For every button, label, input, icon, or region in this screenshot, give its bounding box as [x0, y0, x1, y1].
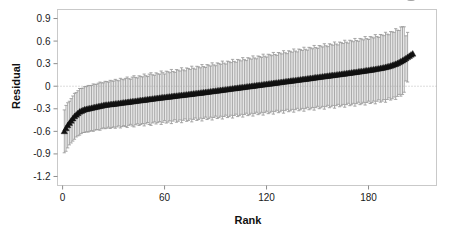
data-markers	[61, 51, 416, 134]
x-tick-label: 120	[258, 192, 275, 203]
plot-frame	[58, 10, 437, 186]
x-axis-label: Rank	[198, 214, 298, 226]
y-tick-label: -0.6	[33, 126, 51, 137]
residual-vs-rank-plot: 0.90.60.30-0.3-0.6-0.9-1.2060120180	[0, 0, 455, 234]
x-tick-label: 0	[60, 192, 66, 203]
y-tick-label: 0.9	[37, 13, 51, 24]
y-tick-label: -0.9	[33, 148, 51, 159]
y-tick-label: -0.3	[33, 103, 51, 114]
x-tick-label: 60	[159, 192, 171, 203]
error-bars	[63, 0, 415, 153]
chart-figure: 0.90.60.30-0.3-0.6-0.9-1.2060120180 Resi…	[0, 0, 455, 234]
y-tick-label: 0	[45, 81, 51, 92]
y-axis-label: Residual	[10, 54, 22, 118]
y-tick-label: 0.6	[37, 36, 51, 47]
y-tick-label: 0.3	[37, 58, 51, 69]
x-tick-label: 180	[360, 192, 377, 203]
y-tick-label: -1.2	[33, 171, 51, 182]
